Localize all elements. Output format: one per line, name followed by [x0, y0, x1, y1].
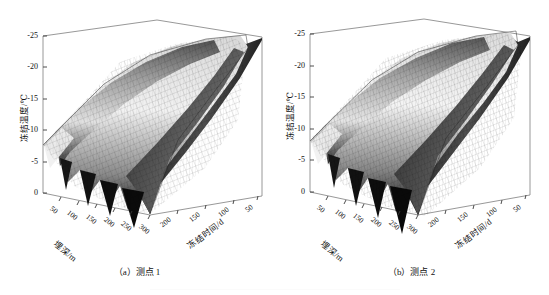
panel-measuring-point-2: 冻结温度/℃ -25 -20 -15 -10 -5 0 50 100 150 2…	[274, 0, 549, 295]
y-axis-tick: -25	[16, 31, 38, 40]
panel-caption: （b）测点 2	[274, 265, 549, 278]
surface-plot-b	[274, 0, 549, 295]
y-tickmarks-a	[43, 36, 47, 193]
mesh-surface-b	[298, 18, 544, 234]
y-axis-label: 冻结温度/℃	[17, 81, 29, 155]
y-axis-tick: 0	[283, 187, 305, 196]
y-axis-tick: -5	[283, 155, 305, 164]
y-axis-tick: -10	[283, 124, 305, 133]
y-axis-tick: -15	[16, 94, 38, 103]
figure-two-panel-surface-plots: 冻结温度/℃ -25 -20 -15 -10 -5 0 50 100 150 2…	[0, 0, 549, 295]
surface-plot-a	[0, 0, 274, 295]
y-axis-tick: -10	[16, 125, 38, 134]
y-axis-tick: -20	[16, 62, 38, 71]
y-axis-tick: 0	[16, 188, 38, 197]
y-axis-tick: -15	[283, 92, 305, 101]
panel-caption: （a）测点 1	[0, 265, 274, 278]
panel-measuring-point-1: 冻结温度/℃ -25 -20 -15 -10 -5 0 50 100 150 2…	[0, 0, 274, 295]
y-axis-tick: -5	[16, 157, 38, 166]
y-axis-label: 冻结温度/℃	[283, 79, 295, 153]
scan-artifact-line	[150, 289, 400, 290]
mesh-surface-a	[30, 20, 270, 230]
y-tickmarks-b	[310, 34, 314, 192]
y-axis-tick: -25	[283, 29, 305, 38]
y-axis-tick: -20	[283, 61, 305, 70]
